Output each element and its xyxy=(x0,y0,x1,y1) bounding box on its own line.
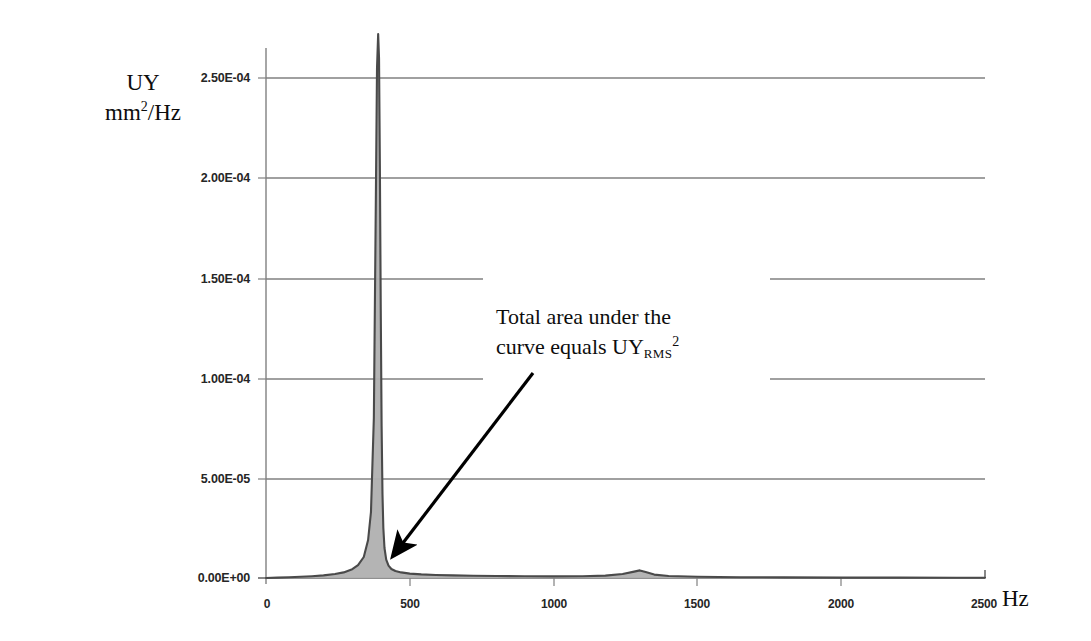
plot-area xyxy=(0,0,1091,641)
axes xyxy=(258,48,985,586)
chart-container: UY mm2/Hz 2.50E-04 2.00E-04 1.50E-04 1.0… xyxy=(0,0,1091,641)
annotation-arrow xyxy=(393,373,533,556)
